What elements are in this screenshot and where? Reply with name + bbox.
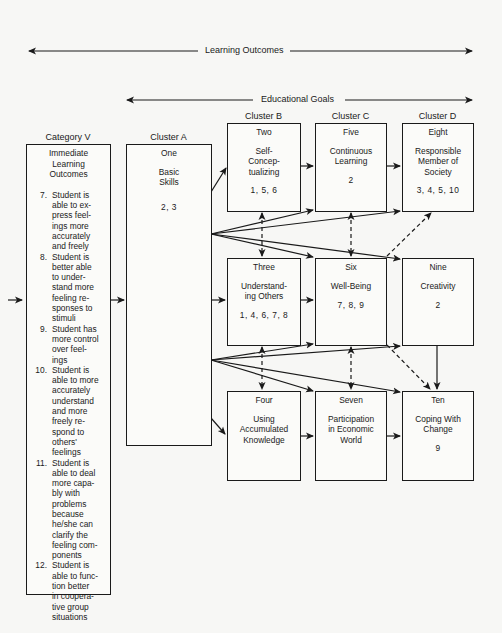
goal-title: Responsible Member of Society — [403, 146, 473, 178]
goal-title: Basic Skills — [127, 167, 211, 188]
outcome-item: 7. Student is able to ex- press feel- in… — [31, 190, 106, 252]
goal-title: Using Accumulated Knowledge — [228, 414, 300, 446]
goal-box-ten: Ten Coping With Change 9 — [402, 391, 474, 481]
goal-box-nine: Nine Creativity 2 — [402, 258, 474, 346]
outcome-number: 9. — [31, 324, 52, 365]
category-v-box: Immediate Learning Outcomes 7. Student i… — [26, 144, 111, 595]
goal-number: Seven — [316, 395, 386, 406]
outcome-text: Student is able to deal more capa- bly w… — [52, 458, 106, 561]
column-header-cluster-c: Cluster C — [315, 111, 386, 121]
goal-title: Well-Being — [316, 281, 386, 292]
goal-refs: 1, 5, 6 — [228, 185, 300, 196]
goal-number: Five — [316, 127, 386, 138]
goal-box-six: Six Well-Being 7, 8, 9 — [315, 258, 387, 346]
outcome-text: Student is able to ex- press feel- ings … — [52, 190, 106, 252]
goal-number: One — [127, 148, 211, 159]
outcome-text: Student is able to more accurately under… — [52, 365, 106, 458]
goal-title: Participation in Economic World — [316, 414, 386, 446]
outcome-item: 12. Student is able to func- tion better… — [31, 560, 106, 622]
outcome-item: 11. Student is able to deal more capa- b… — [31, 458, 106, 561]
column-header-cluster-a: Cluster A — [126, 132, 211, 142]
outcome-item: 8. Student is better able to under- stan… — [31, 252, 106, 324]
outcome-text: Student is able to func- tion better in … — [52, 560, 106, 622]
column-header-cluster-b: Cluster B — [227, 111, 300, 121]
goal-box-seven: Seven Participation in Economic World — [315, 391, 387, 481]
goal-number: Four — [228, 395, 300, 406]
outcome-number: 11. — [31, 458, 52, 561]
goal-number: Ten — [403, 395, 473, 406]
goal-box-eight: Eight Responsible Member of Society 3, 4… — [402, 123, 474, 212]
goal-refs: 7, 8, 9 — [316, 300, 386, 311]
outcome-number: 10. — [31, 365, 52, 458]
outcome-text: Student is better able to under- stand m… — [52, 252, 106, 324]
goal-title: Understand- ing Others — [228, 281, 300, 302]
learning-outcomes-label: Learning Outcomes — [202, 45, 287, 55]
goal-box-two: Two Self- Concep- tualizing 1, 5, 6 — [227, 123, 301, 212]
goal-refs: 2 — [403, 300, 473, 311]
goal-refs: 2 — [316, 175, 386, 186]
outcome-text: Student has more control over feel- ings — [52, 324, 106, 365]
goal-refs: 1, 4, 6, 7, 8 — [228, 310, 300, 321]
goal-refs: 9 — [403, 443, 473, 454]
goal-title: Creativity — [403, 281, 473, 292]
goal-number: Nine — [403, 262, 473, 273]
goal-box-five: Five Continuous Learning 2 — [315, 123, 387, 212]
goal-box-one: One Basic Skills 2, 3 — [126, 144, 212, 446]
outcome-number: 8. — [31, 252, 52, 324]
educational-goals-label: Educational Goals — [258, 94, 337, 104]
goal-refs: 3, 4, 5, 10 — [403, 185, 473, 196]
diagram-canvas: Learning Outcomes Educational Goals Cate… — [0, 0, 502, 633]
outcome-item: 9. Student has more control over feel- i… — [31, 324, 106, 365]
column-header-category-v: Category V — [26, 132, 110, 142]
goal-refs: 2, 3 — [127, 202, 211, 213]
goal-number: Two — [228, 127, 300, 138]
goal-box-three: Three Understand- ing Others 1, 4, 6, 7,… — [227, 258, 301, 346]
goal-box-four: Four Using Accumulated Knowledge — [227, 391, 301, 481]
category-v-heading: Immediate Learning Outcomes — [31, 148, 106, 180]
goal-number: Six — [316, 262, 386, 273]
goal-number: Eight — [403, 127, 473, 138]
goal-title: Coping With Change — [403, 414, 473, 435]
outcome-number: 7. — [31, 190, 52, 252]
outcome-item: 10. Student is able to more accurately u… — [31, 365, 106, 458]
outcome-number: 12. — [31, 560, 52, 622]
goal-title: Self- Concep- tualizing — [228, 146, 300, 178]
column-header-cluster-d: Cluster D — [402, 111, 473, 121]
goal-title: Continuous Learning — [316, 146, 386, 167]
goal-number: Three — [228, 262, 300, 273]
